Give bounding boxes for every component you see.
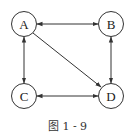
node-d-label: D: [106, 89, 115, 104]
node-c: C: [12, 84, 37, 109]
node-a-label: A: [19, 17, 29, 32]
node-b-label: B: [107, 17, 116, 32]
graph-diagram: A B C D: [0, 0, 135, 135]
node-d: D: [99, 84, 124, 109]
figure-caption: 图 1 - 9: [0, 117, 135, 133]
node-b: B: [99, 12, 124, 37]
edge-a-d: [33, 33, 101, 87]
node-c-label: C: [20, 89, 29, 104]
node-a: A: [12, 12, 37, 37]
